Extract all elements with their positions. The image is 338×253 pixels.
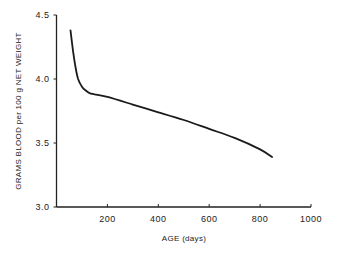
y-tick-label: 4.0 <box>35 74 49 84</box>
y-tick-label: 4.5 <box>35 10 49 20</box>
y-tick-label: 3.0 <box>35 202 49 212</box>
x-tick-label: 800 <box>252 214 269 224</box>
x-tick-label: 400 <box>150 214 167 224</box>
data-line <box>71 30 273 157</box>
x-axis-title: AGE (days) <box>162 234 206 243</box>
line-chart: 3.03.54.04.52004006008001000 AGE (days) … <box>0 0 338 253</box>
x-tick-label: 200 <box>99 214 116 224</box>
x-tick-label: 1000 <box>300 214 322 224</box>
y-tick-label: 3.5 <box>35 138 49 148</box>
axes <box>57 15 312 207</box>
x-tick-label: 600 <box>201 214 218 224</box>
ticks: 3.03.54.04.52004006008001000 <box>35 10 322 224</box>
y-axis-title: GRAMS BLOOD per 100 g NET WEIGHT <box>14 32 23 190</box>
